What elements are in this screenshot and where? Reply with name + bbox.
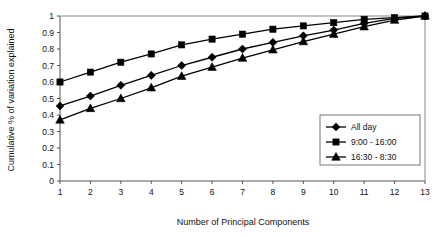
x-tick-label: 6 <box>210 187 215 197</box>
y-tick-label: 0.1 <box>42 160 54 170</box>
data-point-marker <box>209 36 215 42</box>
y-tick-label: 0.3 <box>42 127 54 137</box>
x-tick-label: 12 <box>390 187 400 197</box>
y-tick-label: 0.4 <box>42 110 54 120</box>
x-axis-title: Number of Principal Components <box>177 217 310 227</box>
x-tick-label: 7 <box>240 187 245 197</box>
legend-label: 16:30 - 8:30 <box>351 152 397 162</box>
data-point-marker <box>117 81 125 89</box>
data-point-marker <box>239 31 245 37</box>
line-chart-plot: 00.10.20.30.40.50.60.70.80.91 1234567891… <box>0 0 447 237</box>
x-axis-ticks: 12345678910111213 <box>58 181 430 197</box>
y-tick-label: 1 <box>49 11 54 21</box>
x-tick-label: 13 <box>420 187 430 197</box>
y-tick-label: 0.6 <box>42 77 54 87</box>
data-point-marker <box>57 79 63 85</box>
y-axis-title: Cumulative % of variation explained <box>6 28 16 171</box>
legend-marker-square <box>333 139 339 145</box>
data-series-group <box>56 12 430 124</box>
chart-container: 00.10.20.30.40.50.60.70.80.91 1234567891… <box>0 0 447 237</box>
y-tick-label: 0.9 <box>42 28 54 38</box>
y-tick-label: 0.5 <box>42 94 54 104</box>
data-point-marker <box>147 71 155 79</box>
data-point-marker <box>208 53 216 61</box>
data-point-marker <box>148 51 154 57</box>
x-tick-label: 10 <box>329 187 339 197</box>
x-tick-label: 9 <box>301 187 306 197</box>
data-point-marker <box>178 61 186 69</box>
chart-legend: All day9:00 - 16:0016:30 - 8:30 <box>320 115 420 165</box>
y-tick-label: 0 <box>49 176 54 186</box>
data-point-marker <box>270 26 276 32</box>
data-point-marker <box>87 69 93 75</box>
data-point-marker <box>118 59 124 65</box>
data-point-marker <box>300 23 306 29</box>
x-tick-label: 2 <box>88 187 93 197</box>
x-tick-label: 4 <box>149 187 154 197</box>
x-tick-label: 1 <box>58 187 63 197</box>
y-axis-ticks: 00.10.20.30.40.50.60.70.80.91 <box>42 11 60 186</box>
x-tick-label: 3 <box>118 187 123 197</box>
data-point-marker <box>179 42 185 48</box>
x-tick-label: 11 <box>360 187 369 197</box>
y-tick-label: 0.2 <box>42 143 54 153</box>
x-tick-label: 8 <box>271 187 276 197</box>
data-point-marker <box>238 45 246 53</box>
y-tick-label: 0.8 <box>42 44 54 54</box>
y-tick-label: 0.7 <box>42 61 54 71</box>
data-point-marker <box>56 102 64 110</box>
x-tick-label: 5 <box>179 187 184 197</box>
data-point-marker <box>361 16 367 22</box>
legend-label: All day <box>351 122 377 132</box>
data-point-marker <box>331 20 337 26</box>
legend-label: 9:00 - 16:00 <box>351 137 397 147</box>
data-point-marker <box>86 92 94 100</box>
